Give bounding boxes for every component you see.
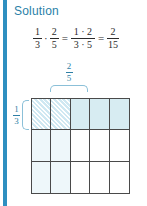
grid-cell-r2-c2 — [51, 130, 70, 161]
grid-cell-r3-c4 — [90, 162, 109, 193]
numerator: 2 — [110, 27, 117, 37]
equals-operator-2: = — [95, 33, 107, 44]
numerator: 1 · 2 — [73, 27, 93, 37]
numerator: 2 — [66, 62, 73, 71]
grid-cell-r1-c4 — [90, 99, 109, 130]
top-fraction-label: 2 5 — [50, 62, 88, 92]
grid — [32, 99, 129, 193]
grid-cell-r1-c5 — [110, 99, 129, 130]
denominator: 15 — [107, 40, 119, 50]
left-fraction-label: 1 3 — [13, 100, 29, 130]
grid-cell-r1-c3 — [71, 99, 90, 130]
denominator: 3 — [13, 117, 20, 126]
grid-cell-r3-c5 — [110, 162, 129, 193]
area-model-diagram: 2 5 1 3 — [0, 62, 147, 206]
equation: 1 3 · 2 5 = 1 · 2 3 · 5 = 2 15 — [33, 27, 119, 50]
grid-cell-r3-c3 — [71, 162, 90, 193]
fraction-two-fifths: 2 5 — [50, 27, 59, 50]
equals-operator-1: = — [59, 33, 71, 44]
fraction-one-third: 1 3 — [33, 27, 42, 50]
denominator: 3 · 5 — [73, 40, 93, 50]
fraction-one-third-label: 1 3 — [13, 105, 20, 126]
grid-container — [31, 98, 130, 194]
grid-cell-r2-c4 — [90, 130, 109, 161]
denominator: 5 — [66, 74, 73, 83]
grid-cell-r3-c1 — [32, 162, 51, 193]
multiply-operator: · — [42, 33, 50, 44]
fraction-two-fifteenths: 2 15 — [107, 27, 119, 50]
numerator: 1 — [34, 27, 41, 37]
denominator: 3 — [34, 40, 41, 50]
top-brace — [50, 85, 88, 92]
numerator: 1 — [13, 105, 20, 114]
grid-cell-r3-c2 — [51, 162, 70, 193]
denominator: 5 — [51, 40, 58, 50]
grid-cell-r2-c1 — [32, 130, 51, 161]
grid-cell-r2-c5 — [110, 130, 129, 161]
page-title: Solution — [14, 4, 59, 18]
left-brace — [22, 100, 29, 130]
fraction-two-fifths-label: 2 5 — [66, 62, 73, 83]
grid-cell-r1-c2 — [51, 99, 70, 130]
fraction-product-expanded: 1 · 2 3 · 5 — [71, 27, 95, 50]
numerator: 2 — [51, 27, 58, 37]
grid-cell-r1-c1 — [32, 99, 51, 130]
grid-cell-r2-c3 — [71, 130, 90, 161]
